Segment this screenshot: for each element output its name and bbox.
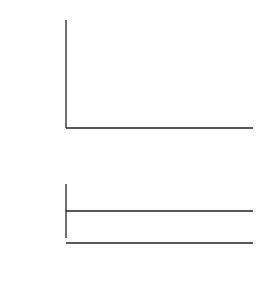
chart-canvas xyxy=(0,0,272,297)
residual-plot xyxy=(66,184,253,243)
top-scatterplot xyxy=(0,0,253,128)
